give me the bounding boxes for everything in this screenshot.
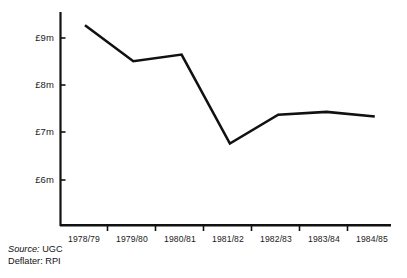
y-axis-label-7m: £7m [8,127,54,137]
chart-footnotes: Source: UGC Deflater: RPI [8,244,63,267]
footnote-deflater: Deflater: RPI [8,256,63,268]
y-axis-label-8m: £8m [8,80,54,90]
footnote-source: Source: UGC [8,244,63,256]
data-series-line [85,25,375,143]
line-chart: £9m £8m £7m £6m 1978/79 1979/80 1980/81 … [0,0,407,278]
footnote-source-key: Source: [8,244,40,254]
footnote-deflater-key: Deflater: [8,256,43,266]
y-axis-label-9m: £9m [8,33,54,43]
footnote-source-value: UGC [42,244,62,254]
footnote-deflater-value: RPI [45,256,60,266]
x-axis-label-1984-85: 1984/85 [344,234,400,244]
y-axis-label-6m: £6m [8,175,54,185]
